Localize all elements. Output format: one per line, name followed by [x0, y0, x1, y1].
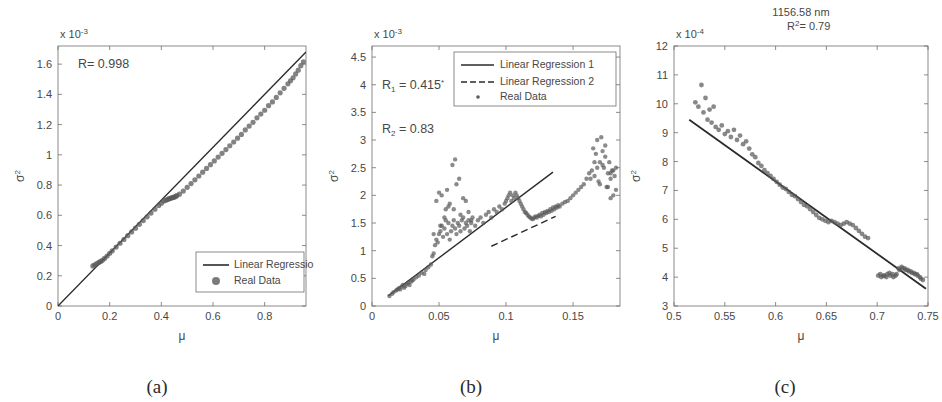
svg-text:Linear Regression 2: Linear Regression 2	[500, 75, 594, 87]
svg-text:0: 0	[360, 300, 366, 312]
svg-text:0.2: 0.2	[37, 270, 52, 282]
svg-text:Linear Regression: Linear Regression	[234, 258, 314, 270]
svg-text:σ2: σ2	[327, 170, 341, 182]
svg-text:σ2: σ2	[629, 170, 643, 182]
svg-text:μ: μ	[493, 329, 500, 343]
svg-text:x 10-4: x 10-4	[676, 27, 704, 40]
svg-text:10: 10	[656, 98, 668, 110]
plot-a: 00.20.40.60.800.20.40.60.811.21.41.6x 10…	[0, 0, 314, 360]
svg-text:Linear Regression 1: Linear Regression 1	[500, 58, 594, 70]
svg-text:11: 11	[657, 69, 668, 81]
panel-b: 00.050.10.1500.511.522.533.544.5x 10-3μσ…	[314, 0, 628, 402]
svg-text:1.5: 1.5	[351, 217, 366, 229]
svg-text:x 10-3: x 10-3	[374, 27, 402, 40]
svg-text:3.5: 3.5	[351, 106, 366, 118]
svg-text:4.5: 4.5	[351, 51, 366, 63]
svg-text:2.5: 2.5	[351, 162, 366, 174]
svg-text:4: 4	[662, 271, 668, 283]
svg-text:0.5: 0.5	[351, 272, 366, 284]
svg-text:0.6: 0.6	[37, 209, 52, 221]
svg-text:0.55: 0.55	[714, 310, 735, 322]
svg-text:0.2: 0.2	[102, 310, 117, 322]
plot-b: 00.050.10.1500.511.522.533.544.5x 10-3μσ…	[314, 0, 628, 360]
svg-text:6: 6	[662, 213, 668, 225]
svg-text:3: 3	[360, 134, 366, 146]
svg-text:0: 0	[55, 310, 61, 322]
svg-text:12: 12	[656, 40, 668, 52]
svg-text:1.4: 1.4	[37, 88, 52, 100]
svg-text:3: 3	[662, 300, 668, 312]
caption-b: (b)	[314, 376, 628, 398]
svg-text:1.2: 1.2	[37, 119, 52, 131]
svg-text:1: 1	[46, 149, 52, 161]
svg-text:0.65: 0.65	[816, 310, 837, 322]
panel-c: 0.50.550.60.650.70.753456789101112x 10-4…	[628, 0, 942, 402]
svg-text:R2= 0.79: R2= 0.79	[787, 19, 830, 32]
svg-text:R= 0.998: R= 0.998	[78, 57, 129, 71]
svg-text:7: 7	[662, 184, 668, 196]
svg-text:μ: μ	[798, 329, 805, 343]
svg-text:0: 0	[46, 300, 52, 312]
svg-text:μ: μ	[179, 329, 186, 343]
svg-text:1: 1	[360, 245, 366, 257]
svg-text:0.4: 0.4	[37, 240, 52, 252]
svg-text:0.8: 0.8	[257, 310, 272, 322]
svg-text:Real Data: Real Data	[500, 90, 547, 102]
svg-text:0.6: 0.6	[768, 310, 783, 322]
caption-c: (c)	[628, 376, 942, 398]
svg-text:4: 4	[360, 79, 366, 91]
svg-text:R2 = 0.83: R2 = 0.83	[382, 122, 434, 138]
svg-text:0.1: 0.1	[498, 310, 513, 322]
svg-text:0.75: 0.75	[917, 310, 938, 322]
caption-a: (a)	[0, 376, 314, 398]
svg-text:σ2: σ2	[13, 170, 27, 182]
panel-a: 00.20.40.60.800.20.40.60.811.21.41.6x 10…	[0, 0, 314, 402]
svg-text:0.5: 0.5	[666, 310, 681, 322]
svg-text:1.6: 1.6	[37, 58, 52, 70]
svg-text:Real Data: Real Data	[234, 274, 281, 286]
svg-text:0.15: 0.15	[562, 310, 583, 322]
svg-text:x 10-3: x 10-3	[60, 27, 88, 40]
svg-text:0.6: 0.6	[205, 310, 220, 322]
svg-text:8: 8	[662, 156, 668, 168]
svg-text:1156.58 nm: 1156.58 nm	[772, 6, 829, 18]
svg-text:0.05: 0.05	[428, 310, 449, 322]
svg-text:0.8: 0.8	[37, 179, 52, 191]
svg-text:0.7: 0.7	[870, 310, 885, 322]
svg-text:0.4: 0.4	[154, 310, 169, 322]
figure-container: 00.20.40.60.800.20.40.60.811.21.41.6x 10…	[0, 0, 942, 402]
svg-text:2: 2	[360, 189, 366, 201]
svg-text:5: 5	[662, 242, 668, 254]
svg-text:9: 9	[662, 127, 668, 139]
svg-text:0: 0	[369, 310, 375, 322]
svg-text:R1 = 0.415*: R1 = 0.415*	[382, 78, 444, 94]
plot-c: 0.50.550.60.650.70.753456789101112x 10-4…	[628, 0, 942, 360]
